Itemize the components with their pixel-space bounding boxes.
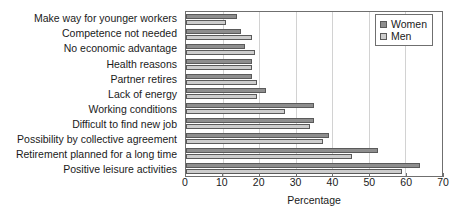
legend-swatch-men-icon	[380, 33, 387, 40]
bar-women	[186, 74, 252, 79]
bar-women	[186, 163, 420, 168]
legend-swatch-women-icon	[380, 21, 387, 28]
bar-women	[186, 133, 329, 138]
legend-item[interactable]: Women	[380, 18, 427, 30]
bar-women	[186, 103, 314, 108]
x-tick-label: 70	[437, 177, 449, 188]
bar-women	[186, 59, 252, 64]
bar-men	[186, 80, 257, 85]
category-label: Competence not needed	[0, 26, 181, 41]
category-label: Partner retires	[0, 71, 181, 86]
category-label: Positive leisure activities	[0, 162, 181, 177]
bar-chart: Make way for younger workersCompetence n…	[0, 0, 460, 218]
bar-women	[186, 14, 237, 19]
bar-men	[186, 154, 352, 159]
category-axis-labels: Make way for younger workersCompetence n…	[0, 11, 181, 177]
bar-women	[186, 148, 378, 153]
category-label: Retirement planned for a long time	[0, 147, 181, 162]
category-label: Lack of energy	[0, 86, 181, 101]
bar-group	[186, 161, 442, 176]
bar-women	[186, 44, 245, 49]
category-label: No economic advantage	[0, 41, 181, 56]
bar-women	[186, 118, 314, 123]
legend-label: Men	[391, 31, 411, 42]
x-tick-label: 50	[363, 177, 375, 188]
legend-item[interactable]: Men	[380, 30, 427, 42]
bar-men	[186, 50, 255, 55]
category-label: Health reasons	[0, 56, 181, 71]
bar-group	[186, 146, 442, 161]
bar-group	[186, 101, 442, 116]
bar-group	[186, 57, 442, 72]
category-label: Possibility by collective agreement	[0, 132, 181, 147]
bar-group	[186, 87, 442, 102]
bar-group	[186, 131, 442, 146]
bar-women	[186, 88, 266, 93]
legend-label: Women	[391, 19, 427, 30]
bar-men	[186, 109, 285, 114]
x-tick-label: 20	[253, 177, 265, 188]
x-axis-label: Percentage	[185, 195, 443, 206]
bar-group	[186, 116, 442, 131]
category-label: Make way for younger workers	[0, 11, 181, 26]
x-tick-label: 10	[216, 177, 228, 188]
bar-group	[186, 72, 442, 87]
bar-men	[186, 20, 226, 25]
x-tick-label: 40	[327, 177, 339, 188]
bar-men	[186, 65, 252, 70]
x-axis-ticks: 010203040506070	[185, 177, 443, 193]
bar-women	[186, 29, 241, 34]
x-tick-label: 0	[182, 177, 188, 188]
x-tick-label: 30	[290, 177, 302, 188]
bar-men	[186, 94, 257, 99]
bar-men	[186, 139, 323, 144]
bar-men	[186, 124, 310, 129]
category-label: Difficult to find new job	[0, 117, 181, 132]
legend: WomenMen	[375, 14, 433, 46]
category-label: Working conditions	[0, 102, 181, 117]
bar-men	[186, 35, 252, 40]
x-tick-label: 60	[400, 177, 412, 188]
